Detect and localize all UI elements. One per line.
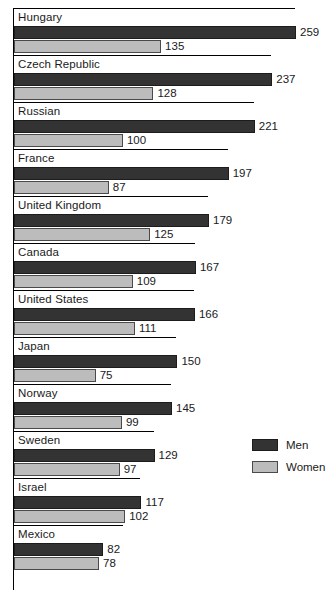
bar-row-women: 109 [14, 275, 173, 288]
bar-value-label: 166 [199, 307, 218, 322]
bar-row-women: 111 [14, 322, 175, 335]
bar-group: Canada167109 [0, 243, 331, 290]
category-label: Canada [18, 244, 59, 260]
bar-row-women: 128 [14, 87, 193, 100]
bar-value-label: 125 [154, 227, 173, 242]
bar-row-men: 259 [14, 26, 331, 39]
bar-men [14, 402, 172, 415]
bar-group-list: Hungary259135Czech Republic237128Russian… [0, 8, 331, 572]
bar-value-label: 109 [137, 274, 156, 289]
bar-value-label: 167 [200, 260, 219, 275]
category-label: Israel [18, 479, 47, 495]
bar-group: France19787 [0, 149, 331, 196]
bar-row-women: 87 [14, 181, 149, 194]
bar-row-women: 102 [14, 510, 165, 523]
bar-value-label: 221 [259, 119, 278, 134]
category-label: Japan [18, 338, 50, 354]
bar-women [14, 228, 150, 241]
bar-row-women: 125 [14, 228, 190, 241]
bar-value-label: 128 [157, 86, 176, 101]
bar-value-label: 78 [103, 556, 116, 571]
category-label: France [18, 150, 54, 166]
bar-group: United States166111 [0, 290, 331, 337]
bar-group: Mexico8278 [0, 525, 331, 572]
bar-row-men: 82 [14, 543, 143, 556]
bar-men [14, 449, 155, 462]
bar-women [14, 463, 120, 476]
bar-value-label: 179 [213, 213, 232, 228]
legend-label: Men [286, 436, 308, 454]
bar-group: Russian221100 [0, 102, 331, 149]
bar-row-men: 145 [14, 402, 212, 415]
legend-swatch-men-icon [252, 439, 278, 451]
bar-value-label: 87 [113, 180, 126, 195]
category-label: United States [18, 291, 88, 307]
bar-group: Japan15075 [0, 337, 331, 384]
bar-row-women: 135 [14, 40, 201, 53]
bar-men [14, 120, 255, 133]
bar-men [14, 496, 141, 509]
bar-row-men: 150 [14, 355, 217, 368]
bar-value-label: 100 [127, 133, 146, 148]
bar-value-label: 129 [159, 448, 178, 463]
bar-value-label: 117 [145, 495, 163, 510]
bar-row-men: 129 [14, 449, 195, 462]
bar-women [14, 181, 109, 194]
bar-men [14, 214, 209, 227]
category-label: Sweden [18, 432, 60, 448]
bar-row-men: 166 [14, 308, 235, 321]
bar-group: United Kingdom179125 [0, 196, 331, 243]
bar-men [14, 167, 229, 180]
category-label: United Kingdom [18, 197, 101, 213]
legend-item-women: Women [252, 458, 328, 476]
bar-women [14, 275, 133, 288]
bar-value-label: 97 [124, 462, 137, 477]
category-label: Russian [18, 103, 60, 119]
legend-label: Women [286, 458, 325, 476]
bar-men [14, 543, 103, 556]
bar-value-label: 237 [276, 72, 295, 87]
bar-women [14, 322, 135, 335]
bar-women [14, 40, 161, 53]
bar-row-women: 99 [14, 416, 162, 429]
bar-row-women: 75 [14, 369, 136, 382]
bar-value-label: 99 [126, 415, 139, 430]
bar-row-men: 221 [14, 120, 295, 133]
category-label: Norway [18, 385, 58, 401]
bar-row-women: 100 [14, 134, 163, 147]
bar-value-label: 145 [176, 401, 195, 416]
bar-value-label: 150 [181, 354, 200, 369]
bar-value-label: 102 [129, 509, 148, 524]
bar-row-women: 78 [14, 557, 139, 570]
bar-men [14, 73, 272, 86]
bar-value-label: 259 [300, 25, 319, 40]
bar-women [14, 369, 96, 382]
bar-women [14, 134, 123, 147]
bar-women [14, 557, 99, 570]
bar-value-label: 82 [107, 542, 120, 557]
bar-group: Hungary259135 [0, 8, 331, 55]
category-label: Mexico [18, 526, 55, 542]
bar-chart: Hungary259135Czech Republic237128Russian… [0, 0, 331, 598]
chart-legend: MenWomen [252, 436, 328, 480]
bar-value-label: 111 [139, 321, 156, 336]
category-label: Czech Republic [18, 56, 100, 72]
bar-men [14, 261, 196, 274]
bar-men [14, 26, 296, 39]
bar-row-men: 179 [14, 214, 249, 227]
bar-value-label: 135 [165, 39, 184, 54]
bar-row-men: 237 [14, 73, 312, 86]
bar-row-men: 117 [14, 496, 181, 509]
bar-row-men: 167 [14, 261, 236, 274]
bar-value-label: 197 [233, 166, 252, 181]
bar-value-label: 75 [100, 368, 113, 383]
legend-item-men: Men [252, 436, 328, 454]
bar-group: Czech Republic237128 [0, 55, 331, 102]
legend-swatch-women-icon [252, 461, 278, 473]
bar-women [14, 416, 122, 429]
category-label: Hungary [18, 9, 62, 25]
bar-men [14, 355, 177, 368]
bar-group: Norway14599 [0, 384, 331, 431]
bar-row-men: 197 [14, 167, 269, 180]
bar-row-women: 97 [14, 463, 160, 476]
